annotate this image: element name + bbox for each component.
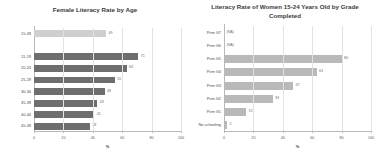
category-label: Prim G5 (181, 57, 221, 61)
two-chart-figure: Female Literacy Rate by Age 15-494915-19… (0, 0, 380, 158)
chart-title-left: Female Literacy Rate by Age (0, 0, 190, 15)
bar-value-label: 33 (275, 97, 279, 101)
x-axis-tick (283, 131, 284, 133)
bar-value-label: 63 (319, 71, 323, 75)
x-axis-tick-label: 40 (91, 137, 95, 141)
x-axis-tick (93, 131, 94, 133)
x-axis-tick-label: 80 (340, 137, 344, 141)
x-axis-tick (312, 131, 313, 133)
category-label: Prim G6 (181, 44, 221, 48)
gridline (342, 26, 343, 132)
chart-title-right: Literacy Rate of Women 15-24 Years Old b… (190, 0, 380, 21)
x-axis-tick-label: 40 (281, 137, 285, 141)
bar: 63 (224, 68, 317, 76)
bar-value-label: 2 (229, 124, 231, 128)
bar-value-label: 41 (97, 113, 101, 117)
gridline (371, 26, 372, 132)
plot-area-left: 15-494915-197120-246325-295530-344835-39… (0, 26, 190, 158)
bar-row: 15-4949 (34, 30, 181, 37)
x-axis-tick (181, 131, 182, 133)
gridline (152, 28, 153, 132)
x-axis-tick-label: 60 (120, 137, 124, 141)
x-axis-title-left: % (106, 145, 110, 149)
x-axis-tick (342, 131, 343, 133)
bar-value-label: 71 (141, 55, 145, 59)
category-label: 15-49 (0, 32, 31, 36)
bar-row: Prim G7(NA) (224, 29, 371, 37)
bar-value-label: 43 (100, 101, 104, 105)
bar-value-label: 47 (296, 84, 300, 88)
plot-box-right: Prim G7(NA)Prim G6(NA)Prim G580Prim G463… (224, 26, 371, 132)
gridline (253, 26, 254, 132)
x-axis-tick (34, 131, 35, 133)
x-axis-tick-label: 60 (310, 137, 314, 141)
bar: 49 (34, 30, 106, 37)
category-label: No schooling (181, 123, 221, 127)
bar-row: 30-3448 (34, 88, 181, 95)
bar-row: 40-4441 (34, 111, 181, 118)
x-axis-tick-label: 100 (178, 137, 184, 141)
x-axis-tick-label: 0 (223, 137, 225, 141)
category-label: 15-19 (0, 55, 31, 59)
bar-value-label: 63 (129, 67, 133, 71)
bar: 63 (34, 65, 127, 72)
bar-row: Prim G463 (224, 68, 371, 76)
category-label: 30-34 (0, 90, 31, 94)
bar-rows-left: 15-494915-197120-246325-295530-344835-39… (34, 28, 181, 132)
bar-row: 35-3943 (34, 100, 181, 107)
category-label: 45-49 (0, 124, 31, 128)
category-label: Prim G7 (181, 31, 221, 35)
bar: 38 (34, 123, 90, 130)
chart-panel-female-literacy-by-age: Female Literacy Rate by Age 15-494915-19… (0, 0, 190, 158)
x-axis-tick-label: 100 (368, 137, 374, 141)
bar-row: Prim G6(NA) (224, 42, 371, 50)
x-axis-title-right: % (296, 145, 300, 149)
bar: 33 (224, 95, 273, 103)
x-axis-tick (122, 131, 123, 133)
bar-value-label: 55 (117, 78, 121, 82)
bar-value-label: 49 (109, 32, 113, 36)
category-label: 40-44 (0, 113, 31, 117)
bar: 43 (34, 100, 97, 107)
x-axis-tick (63, 131, 64, 133)
x-axis-tick (371, 131, 372, 133)
bar-value-label: 80 (344, 57, 348, 61)
bar: 55 (34, 77, 115, 84)
gridline (93, 28, 94, 132)
gridline (63, 28, 64, 132)
bar-row: Prim G233 (224, 95, 371, 103)
bar-rows-right: Prim G7(NA)Prim G6(NA)Prim G580Prim G463… (224, 26, 371, 132)
x-axis-tick (224, 131, 225, 133)
x-axis-tick-label: 20 (251, 137, 255, 141)
x-axis-tick-label: 80 (150, 137, 154, 141)
bar-value-label: 15 (249, 110, 253, 114)
category-label: Prim G2 (181, 97, 221, 101)
category-label: 25-29 (0, 78, 31, 82)
gridline (283, 26, 284, 132)
bar: 48 (34, 88, 105, 95)
bar-row: 15-1971 (34, 53, 181, 60)
bar-row: 25-2955 (34, 77, 181, 84)
bar-value-label: 48 (107, 90, 111, 94)
bar-row: 45-4938 (34, 123, 181, 130)
category-label: 35-39 (0, 101, 31, 105)
x-axis-tick (253, 131, 254, 133)
x-axis-tick (152, 131, 153, 133)
category-label: Prim G1 (181, 110, 221, 114)
bar-row: No schooling2 (224, 121, 371, 129)
bar-row: 20-2463 (34, 65, 181, 72)
x-axis-tick-label: 20 (61, 137, 65, 141)
plot-area-right: Prim G7(NA)Prim G6(NA)Prim G580Prim G463… (190, 24, 380, 158)
category-label: Prim G3 (181, 84, 221, 88)
x-axis-tick-label: 0 (33, 137, 35, 141)
bar-row: Prim G580 (224, 55, 371, 63)
bar-row: Prim G347 (224, 82, 371, 90)
bar: 15 (224, 108, 246, 116)
category-label: Prim G4 (181, 70, 221, 74)
no-data-note: (NA) (227, 44, 234, 48)
chart-panel-literacy-by-grade: Literacy Rate of Women 15-24 Years Old b… (190, 0, 380, 158)
bar-row: Prim G115 (224, 108, 371, 116)
gridline (312, 26, 313, 132)
gridline (122, 28, 123, 132)
no-data-note: (NA) (227, 31, 234, 35)
